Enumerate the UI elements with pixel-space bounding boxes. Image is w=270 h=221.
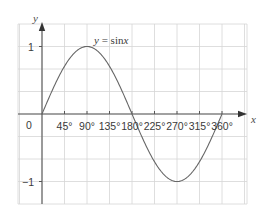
x-tick-label: 180° xyxy=(121,120,143,132)
x-axis-label: x xyxy=(250,113,256,125)
origin-label: 0 xyxy=(26,119,32,131)
x-tick-label: 45° xyxy=(57,120,73,132)
y-axis-label: y xyxy=(32,12,38,24)
x-tick-label: 360° xyxy=(211,120,233,132)
x-tick-label: 90° xyxy=(79,120,95,132)
x-tick-label: 135° xyxy=(99,120,121,132)
x-tick-label: 270° xyxy=(166,120,188,132)
x-tick-label: 225° xyxy=(144,120,166,132)
y-tick-label: 1 xyxy=(28,41,34,53)
curve-label: y = sinx xyxy=(93,34,128,46)
x-tick-label: 315° xyxy=(189,120,211,132)
y-tick-label: −1 xyxy=(22,176,34,188)
axes xyxy=(18,22,247,204)
sine-chart: 45°90°135°180°225°270°315°360°1−1 y x 0 … xyxy=(0,0,270,221)
